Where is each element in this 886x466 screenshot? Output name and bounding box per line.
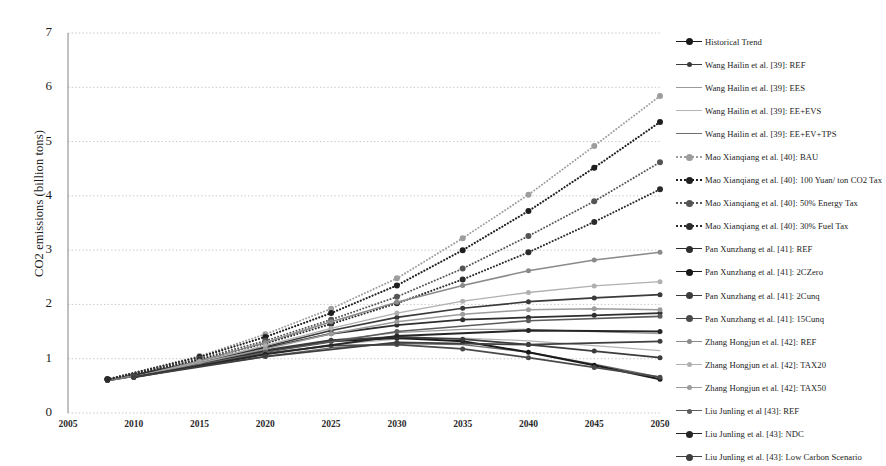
legend-key-icon [676,128,702,140]
data-point [658,307,663,312]
legend-item[interactable]: Liu Junling et al [43]: REF [676,400,886,423]
legend-label: Wang Hailin et al. [39]: REF [705,60,805,70]
data-point [525,192,531,198]
data-point [658,279,663,284]
legend-item[interactable]: Historical Trend [676,30,886,53]
data-point [460,283,465,288]
legend-item[interactable]: Wang Hailin et al. [39]: EES [676,76,886,99]
data-point [658,375,663,380]
data-point [526,342,531,347]
legend-marker [686,292,693,299]
legend-item[interactable]: Pan Xunzhang et al. [41]: 2Cunq [676,284,886,307]
data-point [329,326,334,331]
data-point [394,333,399,338]
data-point [658,250,663,255]
data-point [592,365,597,370]
legend-item[interactable]: Zhang Hongjun et al. [42]: REF [676,330,886,353]
legend-label: Mao Xianqiang et al. [40]: BAU [705,152,818,162]
data-point [525,208,531,214]
data-point [263,354,268,359]
legend-label: Pan Xunzhang et al. [41]: 2Cunq [705,291,820,301]
legend-item[interactable]: Liu Junling et al. [43]: NDC [676,423,886,446]
legend-label: Zhang Hongjun et al. [42]: REF [705,337,816,347]
legend-marker [687,409,692,414]
data-point [460,247,466,253]
data-point [394,311,399,316]
data-point [329,319,334,324]
legend-item[interactable]: Pan Xunzhang et al. [41]: 2CZero [676,261,886,284]
data-point [394,315,399,320]
legend-label: Liu Junling et al [43]: REF [705,406,799,416]
legend-marker [686,454,693,461]
data-point [394,319,399,324]
legend-item[interactable]: Mao Xianqiang et al. [40]: 50% Energy Ta… [676,192,886,215]
legend-label: Liu Junling et al. [43]: NDC [705,429,804,439]
data-point [526,355,531,360]
legend-label: Zhang Hongjun et al. [42]: TAX50 [705,383,826,393]
legend-marker [686,246,693,253]
data-point [526,328,531,333]
legend-key-icon [676,220,702,232]
data-point [526,299,531,304]
legend-marker [686,154,693,161]
data-point [394,294,400,300]
data-point [525,233,531,239]
legend-key-icon [676,451,702,463]
legend-label: Mao Xianqiang et al. [40]: 50% Energy Ta… [705,198,858,208]
legend-item[interactable]: Zhang Hongjun et al. [42]: TAX50 [676,376,886,399]
data-point [657,159,663,165]
legend-line-swatch [676,133,702,134]
data-point [592,295,597,300]
legend-item[interactable]: Wang Hailin et al. [39]: EE+EVS [676,99,886,122]
data-point [657,186,663,192]
data-point [394,282,400,288]
legend-line-swatch [676,87,702,88]
legend-item[interactable]: Pan Xunzhang et al. [41]: REF [676,238,886,261]
data-point [592,313,597,318]
data-point [657,93,663,99]
data-point [591,198,597,204]
legend-marker [687,385,692,390]
data-point [658,314,663,319]
legend-key-icon [676,59,702,71]
legend-line-swatch [676,110,702,111]
legend-marker [686,177,693,184]
legend-key-icon [676,197,702,209]
series-lines [104,93,663,383]
legend-item[interactable]: Wang Hailin et al. [39]: REF [676,53,886,76]
data-point [591,143,597,149]
legend-item[interactable]: Mao Xianqiang et al. [40]: BAU [676,145,886,168]
legend-key-icon [676,313,702,325]
legend-label: Zhang Hongjun et al. [42]: TAX20 [705,360,826,370]
legend-label: Wang Hailin et al. [39]: EE+EV+TPS [705,129,836,139]
data-point [394,300,399,305]
legend-key-icon [676,428,702,440]
data-point [525,249,531,255]
legend-marker [686,269,693,276]
data-point [104,376,110,382]
legend-label: Historical Trend [705,37,762,47]
legend-marker [687,362,692,367]
legend-key-icon [676,105,702,117]
legend-key-icon [676,174,702,186]
legend-item[interactable]: Zhang Hongjun et al. [42]: TAX20 [676,353,886,376]
legend-item[interactable]: Wang Hailin et al. [39]: EE+EV+TPS [676,122,886,145]
legend-item[interactable]: Mao Xianqiang et al. [40]: 100 Yuan/ ton… [676,169,886,192]
legend-item[interactable]: Mao Xianqiang et al. [40]: 30% Fuel Tax [676,215,886,238]
data-point [657,119,663,125]
legend-marker [687,62,692,67]
data-point [329,331,334,336]
data-point [131,375,136,380]
legend-marker [686,223,693,230]
data-point [328,310,334,316]
legend: Historical TrendWang Hailin et al. [39]:… [676,30,886,466]
legend-marker [686,38,693,45]
legend-item[interactable]: Pan Xunzhang et al. [41]: 15Cunq [676,307,886,330]
legend-key-icon [676,405,702,417]
legend-key-icon [676,151,702,163]
data-point [394,340,399,345]
legend-key-icon [676,36,702,48]
data-point [592,349,597,354]
legend-item[interactable]: Liu Junling et al. [43]: Low Carbon Scen… [676,446,886,466]
